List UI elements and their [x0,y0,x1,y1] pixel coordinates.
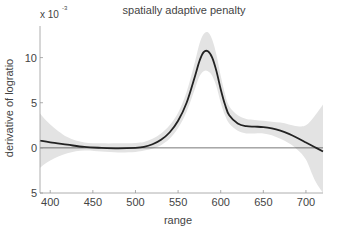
x-tick-label: 450 [84,196,102,208]
x-tick-label: 600 [212,196,230,208]
axes: 40045050055060065070050510 [25,26,323,208]
y-tick-label: 0 [31,142,37,154]
y-tick-label: 5 [31,97,37,109]
plot-area: 40045050055060065070050510 [0,0,340,231]
y-tick-label: 10 [25,52,37,64]
x-tick-label: 650 [254,196,272,208]
x-tick-label: 500 [126,196,144,208]
x-tick-label: 550 [169,196,187,208]
x-tick-label: 400 [41,196,59,208]
x-tick-label: 700 [297,196,315,208]
y-tick-label: 5 [31,187,37,199]
